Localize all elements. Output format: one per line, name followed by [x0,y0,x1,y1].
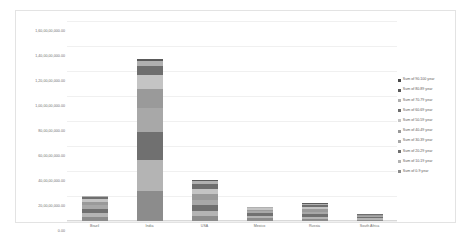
bar[interactable] [137,59,163,221]
bar-segment[interactable] [82,217,108,221]
bar[interactable] [302,203,328,221]
x-axis-category-label: India [146,224,154,228]
legend-swatch-icon [398,109,401,112]
bar-segment[interactable] [137,66,163,75]
legend-item-label: Sum of 0-9 year [403,170,429,174]
legend-item-label: Sum of 90-100 year [403,78,435,82]
y-axis: 1,60,00,00,000.001,40,00,00,000.001,20,0… [16,21,65,221]
x-axis-category-label: USA [201,224,208,228]
legend-item[interactable]: Sum of 90-100 year [398,75,458,85]
bar-stack[interactable] [247,207,273,221]
bar-segment[interactable] [137,132,163,161]
bar-segment[interactable] [302,219,328,221]
bar[interactable] [192,180,218,221]
y-axis-tick-label: 1,00,00,00,000.00 [17,104,65,108]
gridline [67,21,397,22]
y-axis-tick-label: 60,00,00,000.00 [17,154,65,158]
y-axis-tick-label: 80,00,00,000.00 [17,129,65,133]
gridline [67,96,397,97]
y-axis-tick-label: 1,20,00,00,000.00 [17,79,65,83]
legend-item[interactable]: Sum of 30-39 year [398,136,458,146]
bar[interactable] [82,196,108,221]
gridline [67,171,397,172]
bar-segment[interactable] [247,218,273,221]
legend-swatch-icon [398,160,401,163]
bar-stack[interactable] [192,180,218,221]
chart-container: 1,60,00,00,000.001,40,00,00,000.001,20,0… [15,10,456,223]
legend-swatch-icon [398,79,401,82]
bar-stack[interactable] [137,59,163,221]
legend-item[interactable]: Sum of 60-69 year [398,106,458,116]
gridline [67,146,397,147]
legend-item[interactable]: Sum of 70-79 year [398,95,458,105]
legend-item-label: Sum of 20-29 year [403,150,433,154]
legend-item-label: Sum of 40-49 year [403,129,433,133]
gridline [67,46,397,47]
legend-item-label: Sum of 10-19 year [403,160,433,164]
x-axis-category-label: Mexico [254,224,265,228]
legend-item[interactable]: Sum of 10-19 year [398,157,458,167]
legend-item-label: Sum of 70-79 year [403,99,433,103]
bar-segment[interactable] [192,216,218,221]
bar-segment[interactable] [137,108,163,132]
gridline [67,196,397,197]
bar-segment[interactable] [357,220,383,221]
gridline [67,121,397,122]
legend-swatch-icon [398,119,401,122]
bar-segment[interactable] [137,191,163,221]
bar-stack[interactable] [302,203,328,221]
legend-swatch-icon [398,99,401,102]
bar-stack[interactable] [82,196,108,221]
bar-segment[interactable] [137,89,163,108]
legend-swatch-icon [398,130,401,133]
y-axis-tick-label: 40,00,00,000.00 [17,179,65,183]
legend-item-label: Sum of 60-69 year [403,109,433,113]
chart-legend: Sum of 90-100 yearSum of 80-89 yearSum o… [398,75,458,177]
gridline [67,71,397,72]
bar[interactable] [357,214,383,221]
legend-swatch-icon [398,150,401,153]
legend-item[interactable]: Sum of 20-29 year [398,146,458,156]
y-axis-tick-label: 1,60,00,00,000.00 [17,29,65,33]
legend-item-label: Sum of 80-89 year [403,88,433,92]
bar[interactable] [247,207,273,221]
legend-item-label: Sum of 50-59 year [403,119,433,123]
y-axis-tick-label: 1,40,00,00,000.00 [17,54,65,58]
legend-item[interactable]: Sum of 50-59 year [398,116,458,126]
bar-segment[interactable] [137,75,163,89]
bar-segment[interactable] [137,160,163,191]
legend-swatch-icon [398,170,401,173]
y-axis-tick-label: 0.00 [17,229,65,233]
legend-swatch-icon [398,89,401,92]
legend-item[interactable]: Sum of 0-9 year [398,167,458,177]
x-axis-category-label: South Africa [360,224,379,228]
legend-item-label: Sum of 30-39 year [403,139,433,143]
x-axis-category-label: Russia [309,224,320,228]
legend-item[interactable]: Sum of 80-89 year [398,85,458,95]
y-axis-tick-label: 20,00,00,000.00 [17,204,65,208]
gridline [67,221,397,222]
bar-stack[interactable] [357,214,383,221]
legend-swatch-icon [398,140,401,143]
x-axis-category-label: Brazil [90,224,99,228]
legend-item[interactable]: Sum of 40-49 year [398,126,458,136]
plot-area: BrazilIndiaUSAMexicoRussiaSouth Africa [67,21,397,221]
